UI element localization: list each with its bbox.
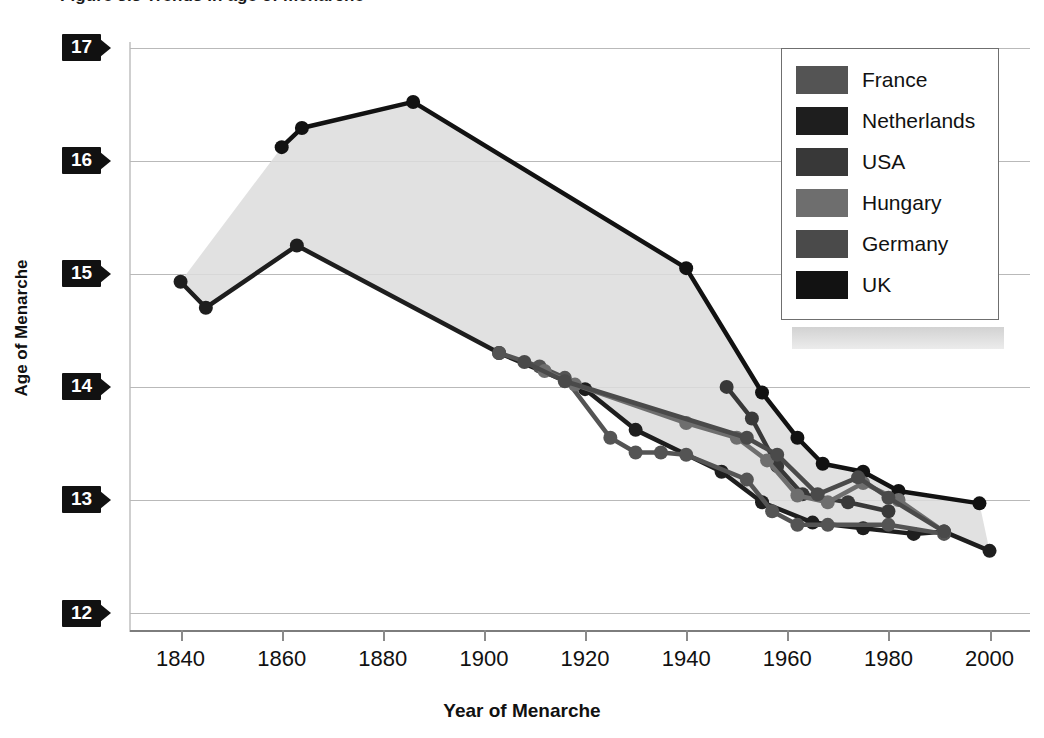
data-point <box>816 457 830 471</box>
legend-swatch-icon <box>796 148 848 176</box>
data-point <box>881 491 895 505</box>
data-point <box>740 431 754 445</box>
data-point <box>654 445 668 459</box>
data-point <box>806 516 820 530</box>
x-axis-tickmark <box>990 630 992 641</box>
chart-legend: FranceNetherlandsUSAHungaryGermanyUK <box>781 48 999 320</box>
x-axis-tickmark <box>585 630 587 641</box>
x-axis-tick-label: 1960 <box>763 646 812 672</box>
legend-label: Germany <box>862 233 948 254</box>
x-axis-tickmark <box>181 630 183 641</box>
figure-root: Figure 3.3 Trends in age of menarche 121… <box>0 0 1044 738</box>
legend-label: USA <box>862 151 905 172</box>
legend-item-uk[interactable]: UK <box>796 264 998 305</box>
x-axis-tick-label: 1980 <box>864 646 913 672</box>
data-point <box>937 525 951 539</box>
data-point <box>679 448 693 462</box>
y-axis-tick-label: 15 <box>62 260 101 287</box>
y-axis-tick-label: 12 <box>62 600 101 627</box>
y-axis-tick-16: 16 <box>62 146 111 176</box>
data-point <box>629 445 643 459</box>
data-point <box>972 496 986 510</box>
data-point <box>629 423 643 437</box>
legend-item-usa[interactable]: USA <box>796 141 998 182</box>
data-point <box>603 431 617 445</box>
data-point <box>275 140 289 154</box>
y-axis-tick-15: 15 <box>62 259 111 289</box>
data-point <box>199 301 213 315</box>
x-axis-tickmark <box>484 630 486 641</box>
data-point <box>720 380 734 394</box>
tick-pointer-icon <box>100 39 111 57</box>
tick-pointer-icon <box>100 152 111 170</box>
data-point <box>679 261 693 275</box>
tick-pointer-icon <box>100 378 111 396</box>
legend-label: UK <box>862 274 891 295</box>
x-axis-title: Year of Menarche <box>0 700 1044 722</box>
legend-swatch-icon <box>796 189 848 217</box>
data-point <box>821 518 835 532</box>
data-point <box>765 504 779 518</box>
y-axis-title: Age of Menarche <box>12 228 32 428</box>
x-axis-tickmark <box>282 630 284 641</box>
data-point <box>811 487 825 501</box>
legend-swatch-icon <box>796 107 848 135</box>
data-point <box>740 473 754 487</box>
legend-swatch-icon <box>796 271 848 299</box>
tick-pointer-icon <box>100 491 111 509</box>
data-point <box>881 518 895 532</box>
legend-swatch-icon <box>796 230 848 258</box>
legend-item-germany[interactable]: Germany <box>796 223 998 264</box>
data-point <box>841 495 855 509</box>
x-axis-tick-label: 1920 <box>561 646 610 672</box>
data-point <box>295 121 309 135</box>
legend-item-france[interactable]: France <box>796 59 998 100</box>
legend-item-netherlands[interactable]: Netherlands <box>796 100 998 141</box>
x-axis-line <box>130 630 1030 632</box>
data-point <box>790 518 804 532</box>
x-axis-tickmark <box>787 630 789 641</box>
tick-pointer-icon <box>100 604 111 622</box>
y-axis-tick-label: 14 <box>62 373 101 400</box>
x-axis-tick-label: 1860 <box>257 646 306 672</box>
data-point <box>492 346 506 360</box>
legend-item-hungary[interactable]: Hungary <box>796 182 998 223</box>
data-point <box>755 386 769 400</box>
x-axis-tick-label: 2000 <box>965 646 1014 672</box>
tick-pointer-icon <box>100 265 111 283</box>
y-axis-tick-label: 17 <box>62 34 101 61</box>
y-axis-tick-14: 14 <box>62 372 111 402</box>
data-point <box>406 95 420 109</box>
x-axis-tick-label: 1880 <box>358 646 407 672</box>
y-axis-tick-label: 13 <box>62 486 101 513</box>
legend-label: Netherlands <box>862 110 975 131</box>
y-axis-tick-13: 13 <box>62 485 111 515</box>
figure-caption: Figure 3.3 Trends in age of menarche <box>60 0 364 6</box>
data-point <box>851 470 865 484</box>
data-point <box>790 488 804 502</box>
y-axis-tick-17: 17 <box>62 33 111 63</box>
x-axis-tick-label: 1900 <box>459 646 508 672</box>
data-point <box>290 239 304 253</box>
data-point <box>790 431 804 445</box>
data-point <box>745 412 759 426</box>
legend-label: France <box>862 69 927 90</box>
data-point <box>517 355 531 369</box>
data-point <box>174 275 188 289</box>
x-axis-tick-label: 1840 <box>156 646 205 672</box>
x-axis-tick-label: 1940 <box>662 646 711 672</box>
data-point <box>881 504 895 518</box>
x-axis-tickmark <box>888 630 890 641</box>
x-axis-tickmark <box>383 630 385 641</box>
data-point <box>558 374 572 388</box>
data-point <box>770 448 784 462</box>
y-axis-tick-12: 12 <box>62 598 111 628</box>
y-axis-tick-label: 16 <box>62 147 101 174</box>
legend-swatch-icon <box>796 66 848 94</box>
legend-label: Hungary <box>862 192 941 213</box>
data-point <box>983 544 997 558</box>
x-axis-tickmark <box>686 630 688 641</box>
